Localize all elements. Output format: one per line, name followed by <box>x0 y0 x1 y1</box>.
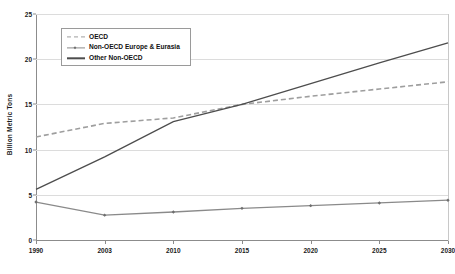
legend-line-marker-icon <box>66 43 86 53</box>
x-tick-label: 2025 <box>372 247 386 254</box>
legend-item-oecd: OECD <box>66 32 186 43</box>
legend-label: Other Non-OECD <box>89 55 142 62</box>
x-tick-label: 2020 <box>303 247 317 254</box>
x-tick-label: 2010 <box>166 247 180 254</box>
x-tick-mark <box>173 241 174 244</box>
legend-line-dashed-icon <box>66 32 86 42</box>
series-marker <box>446 199 449 202</box>
x-tick-label: 1990 <box>29 247 43 254</box>
series-marker <box>172 210 175 213</box>
series-marker <box>309 204 312 207</box>
x-tick-mark <box>448 241 449 244</box>
chart-legend: OECD Non-OECD Europe & Eurasia Other Non… <box>61 28 191 66</box>
x-tick-label: 2015 <box>235 247 249 254</box>
x-axis-ticks: 1990200320102015202020252030 <box>0 241 454 261</box>
y-tick-label: 10 <box>25 146 32 153</box>
y-tick-label: 5 <box>28 191 32 198</box>
series-marker <box>103 213 106 216</box>
plot-right-edge <box>448 14 449 241</box>
x-tick-mark <box>379 241 380 244</box>
legend-label: OECD <box>89 34 108 41</box>
x-tick-mark <box>105 241 106 244</box>
series-marker <box>240 207 243 210</box>
x-tick-mark <box>36 241 37 244</box>
legend-item-non-oecd-europe-eurasia: Non-OECD Europe & Eurasia <box>66 43 186 54</box>
x-tick-label: 2030 <box>441 247 455 254</box>
y-axis-ticks: 0510152025 <box>14 0 36 248</box>
y-tick-label: 20 <box>25 56 32 63</box>
legend-line-solid-icon <box>66 53 86 63</box>
x-tick-mark <box>311 241 312 244</box>
series-marker <box>378 201 381 204</box>
series-line <box>36 82 448 137</box>
legend-label: Non-OECD Europe & Eurasia <box>89 44 180 51</box>
x-tick-mark <box>242 241 243 244</box>
y-tick-label: 25 <box>25 11 32 18</box>
legend-item-other-non-oecd: Other Non-OECD <box>66 53 186 64</box>
y-tick-label: 15 <box>25 101 32 108</box>
x-tick-label: 2003 <box>97 247 111 254</box>
y-axis-title-text: Billion Metric Tons <box>7 93 14 154</box>
